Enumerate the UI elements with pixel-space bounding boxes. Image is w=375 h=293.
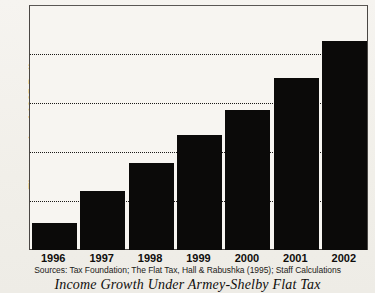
bar [274,78,319,250]
bar-fill [32,223,77,250]
x-tick-label: 1996 [29,252,77,264]
x-tick-label: 2001 [271,252,319,264]
bar-chart: Thousands of 1995 Dollars 012345 1996199… [0,0,375,293]
bar-series [30,6,368,250]
bar [32,223,77,250]
bar-fill [80,191,125,250]
x-axis-tick-labels: 1996199719981999200020012002 [29,252,368,266]
x-tick-label: 1998 [126,252,174,264]
bar [177,135,222,250]
source-note: Sources: Tax Foundation; The Flat Tax, H… [0,265,375,275]
chart-title: Income Growth Under Armey-Shelby Flat Ta… [0,277,375,293]
bar [322,41,367,250]
bar [225,110,270,250]
x-tick-label: 1999 [174,252,222,264]
bar [129,163,174,250]
bar-fill [129,163,174,250]
bar-fill [274,78,319,250]
bar-fill [322,41,367,250]
bar-fill [225,110,270,250]
bar-fill [177,135,222,250]
x-tick-label: 2000 [223,252,271,264]
bar [80,191,125,250]
x-tick-label: 1997 [77,252,125,264]
x-tick-label: 2002 [320,252,368,264]
